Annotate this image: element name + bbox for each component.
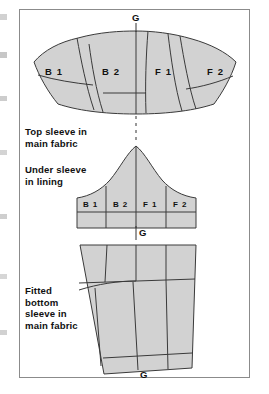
grain-label-bottom: G — [140, 369, 147, 380]
grain-label-middle: G — [139, 227, 146, 238]
top-panel-label-f2: F 2 — [207, 66, 224, 77]
grain-label-top: G — [132, 12, 139, 23]
pattern-figure: G G G B 1 B 2 F 1 F 2 B 1 B 2 F 1 F 2 To… — [0, 0, 269, 394]
top-panel-label-f1: F 1 — [155, 66, 172, 77]
top-panel-label-b1: B 1 — [45, 66, 63, 77]
top-panel-label-b2: B 2 — [102, 66, 120, 77]
under-panel-label-b2: B 2 — [113, 200, 128, 209]
under-panel-label-b1: B 1 — [83, 200, 98, 209]
under-panel-label-f1: F 1 — [143, 200, 157, 209]
caption-under-sleeve: Under sleeve in lining — [25, 164, 87, 187]
caption-bottom-sleeve: Fitted bottom sleeve in main fabric — [25, 285, 78, 331]
caption-top-sleeve: Top sleeve in main fabric — [25, 126, 87, 149]
grain-lines — [0, 0, 269, 394]
under-panel-label-f2: F 2 — [173, 200, 187, 209]
